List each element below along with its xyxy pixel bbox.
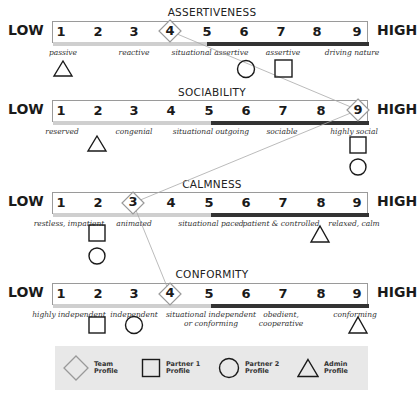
admin-triangle-icon (349, 317, 367, 333)
admin-triangle-icon (88, 136, 106, 151)
legend-item-admin: Admin Profile (297, 346, 348, 390)
legend-item-partner2: Partner 2 Profile (218, 346, 279, 390)
team-value: 4 (160, 23, 180, 38)
partner2-circle-icon (126, 317, 143, 334)
partner1-square-icon (89, 225, 105, 241)
markers-overlay (0, 0, 418, 401)
legend-item-partner1: Partner 1 Profile (141, 346, 200, 390)
legend: Team Profile Partner 1 Profile Partner 2… (55, 346, 368, 390)
team-profile-line (133, 31, 358, 294)
team-value: 9 (348, 102, 368, 117)
team-value: 4 (160, 285, 180, 300)
partner1-square-icon (275, 60, 292, 77)
partner1-square-icon (89, 317, 105, 333)
partner2-circle-icon (218, 357, 240, 379)
legend-label: Partner 2 Profile (245, 361, 279, 375)
partner2-circle-icon (89, 248, 105, 264)
legend-item-team: Team Profile (63, 346, 118, 390)
legend-label: Partner 1 Profile (166, 361, 200, 375)
legend-label: Admin Profile (324, 361, 348, 375)
partner1-square-icon (350, 137, 366, 153)
admin-triangle-icon (311, 226, 329, 242)
team-value: 3 (123, 194, 143, 209)
admin-triangle-icon (54, 61, 72, 76)
team-diamond-icon (63, 355, 89, 381)
legend-label: Team Profile (94, 361, 118, 375)
partner2-circle-icon (350, 159, 366, 175)
partner1-square-icon (141, 358, 161, 378)
admin-triangle-icon (297, 358, 319, 378)
